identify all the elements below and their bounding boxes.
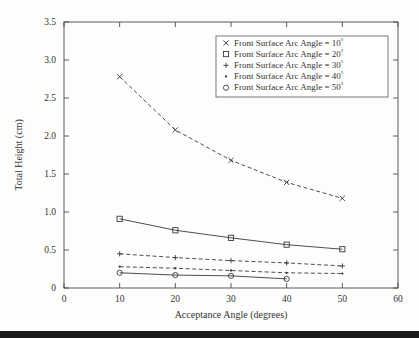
legend-item-label: Front Surface Arc Angle = 40° (234, 70, 344, 81)
y-tick-label: 2.5 (44, 93, 56, 103)
series-2 (117, 216, 345, 252)
series-3 (117, 251, 345, 268)
y-tick-label: 3.0 (44, 55, 56, 65)
y-tick-label: 1.0 (44, 207, 56, 217)
data-marker-dot (225, 75, 227, 77)
data-marker-plus (117, 251, 122, 256)
legend-degree-sign: ° (341, 59, 344, 66)
data-marker-x (284, 180, 289, 185)
legend-degree-sign: ° (341, 81, 344, 88)
x-tick-label: 10 (115, 294, 125, 304)
y-tick-label: 0.5 (44, 245, 56, 255)
x-tick-label: 30 (226, 294, 236, 304)
y-tick-label: 3.5 (44, 17, 56, 27)
legend-item-5[interactable]: Front Surface Arc Angle = 50° (223, 81, 343, 92)
legend-degree-sign: ° (341, 37, 344, 44)
x-tick-label: 40 (282, 294, 292, 304)
legend-item-label: Front Surface Arc Angle = 20° (234, 48, 344, 59)
legend: Front Surface Arc Angle = 10°Front Surfa… (216, 36, 388, 97)
legend-item-label: Front Surface Arc Angle = 10° (234, 37, 344, 48)
y-tick-label: 0 (51, 283, 56, 293)
data-marker-dot (119, 266, 121, 268)
x-tick-label: 0 (62, 294, 67, 304)
legend-item-1[interactable]: Front Surface Arc Angle = 10° (223, 37, 343, 48)
data-marker-x (340, 196, 345, 201)
x-tick-label: 20 (171, 294, 181, 304)
legend-degree-sign: ° (341, 48, 344, 55)
data-marker-x (228, 158, 233, 163)
chart-figure: 010203040506000.51.01.52.02.53.03.5Accep… (0, 0, 419, 338)
x-axis-title: Acceptance Angle (degrees) (175, 309, 288, 321)
y-tick-label: 2.0 (44, 131, 56, 141)
series-line (120, 273, 287, 279)
legend-item-label: Front Surface Arc Angle = 30° (234, 59, 344, 70)
data-marker-x (173, 127, 178, 132)
data-marker-plus (284, 260, 289, 265)
data-marker-dot (286, 272, 288, 274)
data-marker-plus (173, 255, 178, 260)
data-marker-plus (340, 263, 345, 268)
legend-item-4[interactable]: Front Surface Arc Angle = 40° (225, 70, 344, 81)
legend-item-3[interactable]: Front Surface Arc Angle = 30° (223, 59, 343, 70)
data-marker-dot (174, 267, 176, 269)
x-tick-label: 50 (338, 294, 348, 304)
data-marker-plus (228, 258, 233, 263)
data-marker-dot (230, 269, 232, 271)
page-scan-bottom-bar (0, 331, 419, 338)
series-line (120, 219, 343, 249)
legend-item-2[interactable]: Front Surface Arc Angle = 20° (223, 48, 343, 59)
y-axis-title: Total Height (cm) (13, 119, 25, 191)
line-chart: 010203040506000.51.01.52.02.53.03.5Accep… (0, 0, 419, 338)
series-5 (117, 270, 289, 281)
data-marker-dot (341, 272, 343, 274)
x-tick-label: 60 (393, 294, 403, 304)
legend-item-label: Front Surface Arc Angle = 50° (234, 81, 344, 92)
legend-degree-sign: ° (341, 70, 344, 77)
y-tick-label: 1.5 (44, 169, 56, 179)
data-marker-x (117, 74, 122, 79)
